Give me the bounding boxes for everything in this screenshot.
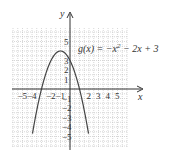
- function-label: g(x) = −x2 − 2x + 3: [78, 42, 158, 55]
- x-axis-label: x: [137, 91, 143, 102]
- svg-text:−2: −2: [46, 91, 56, 101]
- svg-text:−3: −3: [62, 113, 72, 123]
- svg-text:3: 3: [96, 91, 101, 101]
- svg-text:−1: −1: [62, 94, 72, 104]
- svg-text:2: 2: [64, 65, 69, 75]
- function-graph: x y −5−4−2−123455321−1−2−3−4−5 g(x) = −x…: [0, 0, 178, 154]
- svg-text:−4: −4: [27, 91, 37, 101]
- svg-text:−2: −2: [62, 103, 72, 113]
- svg-text:−5: −5: [62, 132, 72, 142]
- svg-text:2: 2: [87, 91, 92, 101]
- y-axis-label: y: [59, 8, 65, 19]
- svg-text:−4: −4: [62, 122, 72, 132]
- svg-text:1: 1: [64, 75, 69, 85]
- svg-text:5: 5: [64, 37, 69, 47]
- svg-text:4: 4: [106, 91, 111, 101]
- svg-text:5: 5: [115, 91, 120, 101]
